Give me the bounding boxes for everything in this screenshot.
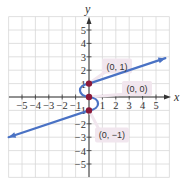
y-tick-label: −5 [75,159,86,170]
x-tick-label: −5 [16,100,27,111]
x-tick-label: −2 [57,100,68,111]
y-axis-label: y [84,2,91,16]
x-tick-label: 3 [127,100,132,111]
y-tick-label: 4 [81,38,87,49]
point-marker [86,94,92,100]
arrow-right-icon [158,58,166,64]
y-axis-arrow-icon [87,17,92,24]
x-tick-label: 4 [140,100,146,111]
point-label: (0, 0) [126,84,147,94]
y-tick-label: −4 [75,146,87,157]
x-axis-arrow-icon [164,95,171,100]
point-marker [86,107,92,113]
y-tick-label: 3 [81,52,86,63]
y-tick-label: −3 [75,132,86,143]
x-axis-label: x [173,90,180,104]
point-label: (0, −1) [99,130,125,140]
y-tick-label: −2 [75,119,86,130]
point-marker [86,80,92,86]
x-tick-label: 2 [113,100,118,111]
marked-points [86,80,92,113]
x-tick-label: 5 [153,100,158,111]
x-tick-label: −3 [43,100,54,111]
y-tick-label: 5 [81,25,86,36]
y-tick-label: 2 [81,65,86,76]
point-label: (0, 1) [106,62,127,72]
graph-plot: x y −5−4−3−2−112345−5−4−3−2−112345 (0, 1… [0,0,188,186]
x-tick-label: −4 [30,100,42,111]
x-tick-label: 1 [100,100,105,111]
arrow-left-icon [9,132,17,138]
